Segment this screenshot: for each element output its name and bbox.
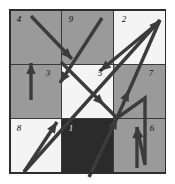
- cell-number-8: 8: [17, 123, 22, 133]
- cell-number-4: 4: [17, 14, 22, 24]
- cell-number-3: 3: [45, 68, 51, 78]
- grid-arrow-diagram: 492357816: [0, 0, 175, 184]
- cell-number-2: 2: [122, 14, 127, 24]
- cell-number-5: 5: [98, 68, 103, 78]
- cell-number-6: 6: [150, 123, 155, 133]
- diagram-canvas: 492357816: [0, 0, 175, 184]
- grid-cell-3: [10, 64, 62, 118]
- cell-number-1: 1: [69, 123, 74, 133]
- cell-number-7: 7: [149, 68, 154, 78]
- cell-number-9: 9: [69, 14, 74, 24]
